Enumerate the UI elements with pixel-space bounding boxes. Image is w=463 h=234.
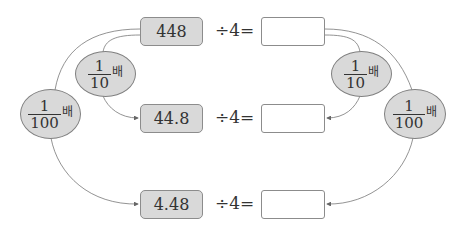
denominator: 10 bbox=[88, 74, 111, 91]
numerator: 1 bbox=[349, 58, 363, 74]
times-suffix: 배 bbox=[426, 102, 437, 119]
times-suffix: 배 bbox=[112, 62, 123, 79]
numerator: 1 bbox=[402, 98, 416, 114]
answer-box-1[interactable] bbox=[261, 17, 325, 46]
value-box-4-48: 4.48 bbox=[140, 190, 203, 219]
divide-operator: ÷4= bbox=[215, 107, 254, 127]
times-suffix: 배 bbox=[368, 62, 379, 79]
divide-operator: ÷4= bbox=[215, 20, 254, 40]
value-box-448: 448 bbox=[140, 17, 203, 46]
denominator: 100 bbox=[393, 114, 426, 131]
multiplier-left-1-10: 110배 bbox=[75, 51, 136, 97]
denominator: 10 bbox=[344, 74, 367, 91]
numerator: 1 bbox=[38, 98, 52, 114]
times-suffix: 배 bbox=[62, 102, 73, 119]
multiplier-right-1-100: 1100배 bbox=[384, 89, 446, 139]
multiplier-right-1-10: 110배 bbox=[331, 51, 392, 97]
answer-box-3[interactable] bbox=[261, 190, 325, 219]
divide-operator: ÷4= bbox=[215, 193, 254, 213]
answer-box-2[interactable] bbox=[261, 104, 325, 133]
diagram: 448 ÷4= 44.8 ÷4= 4.48 ÷4= 110배 1100배 110… bbox=[0, 0, 463, 234]
denominator: 100 bbox=[28, 114, 61, 131]
multiplier-left-1-100: 1100배 bbox=[20, 89, 81, 139]
value-box-44-8: 44.8 bbox=[140, 104, 203, 133]
numerator: 1 bbox=[93, 58, 107, 74]
